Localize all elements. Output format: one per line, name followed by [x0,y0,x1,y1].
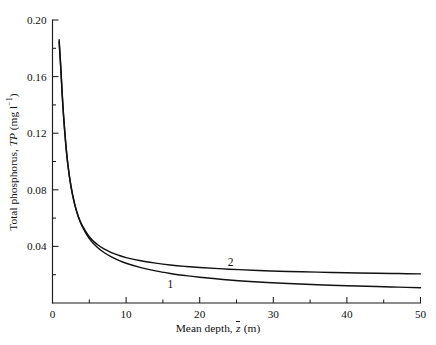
y-tick-label: 0.08 [27,184,47,196]
curve-annotations: 12 [167,256,233,290]
curve-annotation-1: 1 [167,278,173,290]
z-bar-symbol: z [236,322,241,334]
x-tick-label: 20 [194,308,206,320]
y-axis-ticks [53,20,59,275]
y-tick-label: 0.20 [27,14,47,26]
tp-symbol: TP [7,133,19,146]
y-axis-title-prefix: Total phosphorus, [7,146,19,230]
x-tick-label: 0 [50,308,56,320]
chart-canvas: 01020304050 0.040.080.120.160.20 12 [0,0,436,345]
y-tick-label: 0.12 [27,127,47,139]
y-axis-tick-labels: 0.040.080.120.160.20 [27,14,47,252]
x-axis-ticks [89,297,420,303]
curve-1 [59,40,420,288]
y-axis-unit-open: (mg l [7,106,19,133]
curve-2 [59,42,420,274]
x-axis-title-suffix: (m) [241,322,260,334]
x-tick-label: 10 [121,308,133,320]
x-axis-tick-labels: 01020304050 [50,308,427,320]
x-tick-label: 40 [341,308,353,320]
phosphorus-depth-chart: 01020304050 0.040.080.120.160.20 12 Mean… [0,0,436,345]
y-axis-title: Total phosphorus, TP (mg l−1) [7,37,27,287]
x-tick-label: 50 [415,308,427,320]
y-axis-unit-close: ) [7,93,19,97]
y-tick-label: 0.16 [27,71,47,83]
y-axis-unit-exponent: −1 [5,97,14,106]
x-axis-title-prefix: Mean depth, [176,322,236,334]
x-axis-title: Mean depth, z (m) [0,322,436,334]
axes [53,20,421,303]
curve-annotation-2: 2 [228,256,234,268]
data-curves [59,40,420,288]
x-tick-label: 30 [268,308,280,320]
y-tick-label: 0.04 [27,240,47,252]
